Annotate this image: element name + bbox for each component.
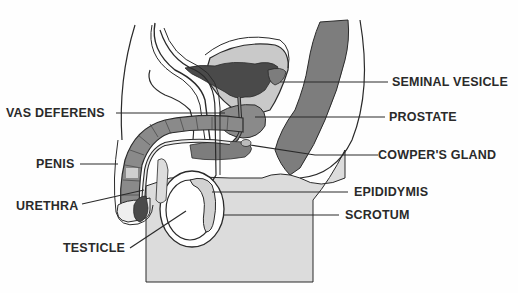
penis-highlight [126,168,138,178]
label-penis: PENIS [36,157,75,171]
label-vas-deferens: VAS DEFERENS [6,106,105,120]
label-urethra: URETHRA [16,199,79,213]
leader-cowpers-gland [250,145,378,155]
rectum [275,20,349,175]
label-scrotum: SCROTUM [345,208,410,222]
penis-side-strip [156,159,168,203]
label-testicle: TESTICLE [63,241,125,255]
anatomy-diagram: SEMINAL VESICLE VAS DEFERENS PROSTATE CO… [0,0,518,293]
label-cowpers-gland: COWPER'S GLAND [378,148,496,162]
cowpers-gland-shape [241,140,251,147]
label-seminal-vesicle: SEMINAL VESICLE [392,75,508,89]
body-outline-front [121,25,135,140]
label-prostate: PROSTATE [389,110,457,124]
label-epididymis: EPIDIDYMIS [354,185,428,199]
